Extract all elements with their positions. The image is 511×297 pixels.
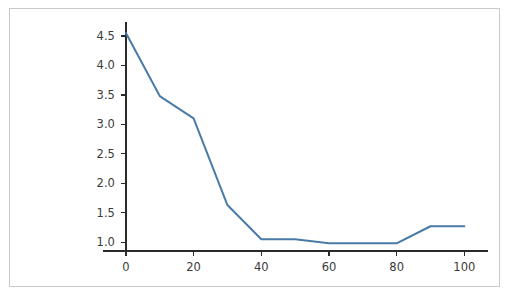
x-tick-label: 60 [322, 260, 337, 274]
y-tick-label: 4.0 [97, 58, 115, 72]
y-tick-label: 3.5 [97, 88, 115, 102]
y-tick-label: 3.0 [97, 117, 115, 131]
y-tick-label: 2.5 [97, 147, 115, 161]
line-chart: 1.01.52.02.53.03.54.04.5 020406080100 [10, 9, 499, 286]
y-tick-label: 1.0 [97, 235, 115, 249]
x-tick-label: 40 [254, 260, 269, 274]
x-tick-label: 0 [122, 260, 129, 274]
y-tick-label: 2.0 [97, 176, 115, 190]
x-tick-label: 20 [186, 260, 201, 274]
chart-figure-frame: 1.01.52.02.53.03.54.04.5 020406080100 [9, 8, 500, 287]
x-tick-label: 100 [453, 260, 475, 274]
y-tick-label: 4.5 [97, 29, 115, 43]
x-tick-label: 80 [389, 260, 404, 274]
chart-background [10, 9, 499, 286]
y-tick-label: 1.5 [97, 206, 115, 220]
